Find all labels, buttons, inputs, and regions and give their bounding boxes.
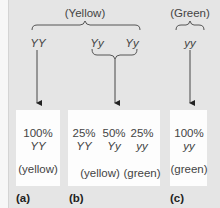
green-group-label: (Green) <box>170 8 210 20</box>
genotype-yy: yy <box>184 38 196 50</box>
heterozygote-brace <box>92 49 137 59</box>
panel-a-genotype: YY <box>30 141 45 153</box>
panel-b-genotype-3: yy <box>136 141 148 153</box>
panel-c-percent: 100% <box>174 128 203 140</box>
panel-b-phenotype-green: (green) <box>123 168 160 180</box>
panel-b-percent-1: 25% <box>72 128 95 140</box>
panel-b-genotype-1: YY <box>76 141 91 153</box>
panel-c-phenotype: (green) <box>170 164 207 176</box>
yellow-group-label: (Yellow) <box>65 8 105 20</box>
panel-b-percent-2: 50% <box>102 128 125 140</box>
panel-b-percent-3: 25% <box>130 128 153 140</box>
panel-a-percent: 100% <box>23 128 52 140</box>
panel-a-label: (a) <box>16 193 30 205</box>
genotype-Yy-2: Yy <box>125 38 138 50</box>
yellow-brace <box>32 21 140 30</box>
panel-b-label: (b) <box>69 193 84 205</box>
panel-a-phenotype: (yellow) <box>18 164 58 176</box>
panel-c-label: (c) <box>170 193 184 205</box>
genotype-YY: YY <box>30 38 45 50</box>
panel-b-genotype-2: Yy <box>107 141 120 153</box>
panel-b-phenotype-yellow: (yellow) <box>80 168 120 180</box>
green-brace <box>176 21 204 30</box>
panel-c-genotype: yy <box>183 141 195 153</box>
genetics-cross-diagram: (Yellow) (Green) YY Yy Yy yy 100% YY (ye… <box>0 0 220 208</box>
genotype-Yy-1: Yy <box>90 38 103 50</box>
